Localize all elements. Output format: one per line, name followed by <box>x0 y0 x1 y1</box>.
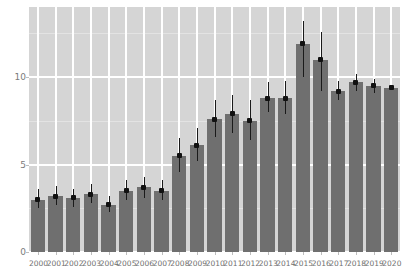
x-axis-tick-label-2008: 2008 <box>170 260 188 268</box>
bar-2004 <box>101 205 115 252</box>
x-axis-tick-label-2006: 2006 <box>135 260 153 268</box>
x-axis-tick-label-2019: 2019 <box>365 260 383 268</box>
bar-2007 <box>154 191 168 252</box>
bar-2010 <box>207 119 221 252</box>
y-axis-tick-mark <box>26 77 29 78</box>
data-point-2011 <box>230 111 235 116</box>
data-point-2016 <box>318 57 323 62</box>
plot-area <box>29 7 400 252</box>
x-axis-tick-label-2007: 2007 <box>153 260 171 268</box>
x-axis-tick-mark <box>268 252 269 255</box>
data-point-2012 <box>247 118 252 123</box>
x-axis-tick-mark <box>232 252 233 255</box>
x-axis-tick-mark <box>38 252 39 255</box>
y-axis-tick-label: 10 <box>2 73 26 82</box>
data-point-2003 <box>88 192 93 197</box>
bar-chart-figure: 0510 20002001200220032004200520062007200… <box>0 0 409 279</box>
data-point-2001 <box>53 194 58 199</box>
x-axis-tick-label-2017: 2017 <box>329 260 347 268</box>
data-point-2002 <box>71 195 76 200</box>
x-axis-tick-mark <box>356 252 357 255</box>
x-axis-tick-label-2003: 2003 <box>82 260 100 268</box>
x-axis-tick-mark <box>285 252 286 255</box>
x-axis-tick-mark <box>109 252 110 255</box>
data-point-2020 <box>389 85 394 90</box>
x-axis-tick-label-2018: 2018 <box>347 260 365 268</box>
x-axis-tick-mark <box>91 252 92 255</box>
data-point-2010 <box>212 117 217 122</box>
bar-2018 <box>349 82 363 252</box>
x-axis-tick-mark <box>126 252 127 255</box>
x-axis-tick-label-2002: 2002 <box>64 260 82 268</box>
x-axis-tick-mark <box>338 252 339 255</box>
error-bar-2015 <box>303 21 304 77</box>
y-axis-tick-mark <box>26 165 29 166</box>
bar-2014 <box>278 98 292 252</box>
x-axis-tick-mark <box>215 252 216 255</box>
x-axis-tick-label-2016: 2016 <box>312 260 330 268</box>
data-point-2018 <box>353 80 358 85</box>
x-axis: 2000200120022003200420052006200720082009… <box>29 252 400 279</box>
x-axis-tick-mark <box>321 252 322 255</box>
bar-2020 <box>384 88 398 253</box>
x-axis-tick-label-2000: 2000 <box>29 260 47 268</box>
x-axis-tick-label-2005: 2005 <box>117 260 135 268</box>
x-axis-tick-label-2020: 2020 <box>382 260 400 268</box>
data-point-2006 <box>141 185 146 190</box>
bar-2019 <box>366 86 380 252</box>
x-axis-tick-label-2001: 2001 <box>47 260 65 268</box>
bar-2009 <box>190 145 204 252</box>
x-axis-tick-mark <box>303 252 304 255</box>
x-axis-tick-label-2014: 2014 <box>276 260 294 268</box>
x-axis-tick-mark <box>73 252 74 255</box>
x-axis-tick-label-2009: 2009 <box>188 260 206 268</box>
x-axis-tick-mark <box>197 252 198 255</box>
x-axis-tick-mark <box>391 252 392 255</box>
x-axis-tick-label-2010: 2010 <box>206 260 224 268</box>
x-axis-tick-mark <box>144 252 145 255</box>
bar-2005 <box>119 191 133 252</box>
x-axis-tick-mark <box>250 252 251 255</box>
data-point-2009 <box>194 143 199 148</box>
x-axis-tick-mark <box>374 252 375 255</box>
data-point-2013 <box>265 96 270 101</box>
y-axis-tick-label: 5 <box>2 161 26 170</box>
bar-2017 <box>331 91 345 252</box>
data-point-2005 <box>124 188 129 193</box>
data-point-2019 <box>371 83 376 88</box>
data-point-2014 <box>283 96 288 101</box>
x-axis-tick-label-2011: 2011 <box>223 260 241 268</box>
x-axis-tick-label-2004: 2004 <box>100 260 118 268</box>
x-axis-tick-mark <box>56 252 57 255</box>
x-axis-tick-label-2015: 2015 <box>294 260 312 268</box>
y-axis-tick-label: 0 <box>2 248 26 257</box>
bar-2011 <box>225 114 239 252</box>
data-point-2017 <box>336 89 341 94</box>
data-point-2000 <box>35 197 40 202</box>
bar-2012 <box>243 121 257 252</box>
y-axis: 0510 <box>0 7 26 252</box>
data-point-2015 <box>300 41 305 46</box>
x-axis-tick-mark <box>162 252 163 255</box>
x-axis-tick-label-2012: 2012 <box>241 260 259 268</box>
data-point-2007 <box>159 188 164 193</box>
bar-2013 <box>260 98 274 252</box>
data-point-2008 <box>177 153 182 158</box>
x-axis-tick-label-2013: 2013 <box>259 260 277 268</box>
data-point-2004 <box>106 202 111 207</box>
x-axis-tick-mark <box>179 252 180 255</box>
